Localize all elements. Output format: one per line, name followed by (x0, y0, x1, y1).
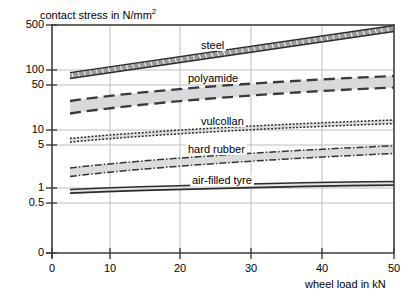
x-tick-label-50: 50 (380, 263, 408, 274)
y-axis-title: contact stress in N/mm2 (40, 6, 156, 21)
curve-label-hard-rubber: hard rubber (186, 144, 247, 155)
curve-label-polyamide: polyamide (186, 73, 240, 84)
y-tick-label-1: 1 (6, 182, 44, 193)
curve-label-steel: steel (199, 40, 226, 51)
x-tick-label-20: 20 (166, 263, 194, 274)
y-tick-label-5: 5 (6, 139, 44, 150)
y-tick-label-100: 100 (6, 64, 44, 75)
y-tick-label-50: 50 (6, 79, 44, 90)
x-tick-label-40: 40 (308, 263, 336, 274)
y-tick-label-500: 500 (6, 19, 44, 30)
chart-root: 500 100 50 10 5 1 0.5 0 0 10 20 30 40 50… (0, 0, 418, 297)
x-axis-title: wheel load in kN (305, 278, 386, 290)
y-axis-title-exponent: 2 (152, 7, 156, 16)
x-tick-label-10: 10 (96, 263, 124, 274)
y-axis-title-text: contact stress in N/mm (40, 9, 152, 21)
curve-label-air-filled-tyre: air-filled tyre (190, 175, 254, 186)
y-tick-label-0: 0 (6, 247, 44, 258)
y-tick-label-10: 10 (6, 124, 44, 135)
curve-label-vulcollan: vulcollan (199, 116, 246, 127)
y-tick-label-0-5: 0.5 (6, 197, 44, 208)
x-tick-label-30: 30 (237, 263, 265, 274)
x-tick-label-0: 0 (38, 263, 66, 274)
